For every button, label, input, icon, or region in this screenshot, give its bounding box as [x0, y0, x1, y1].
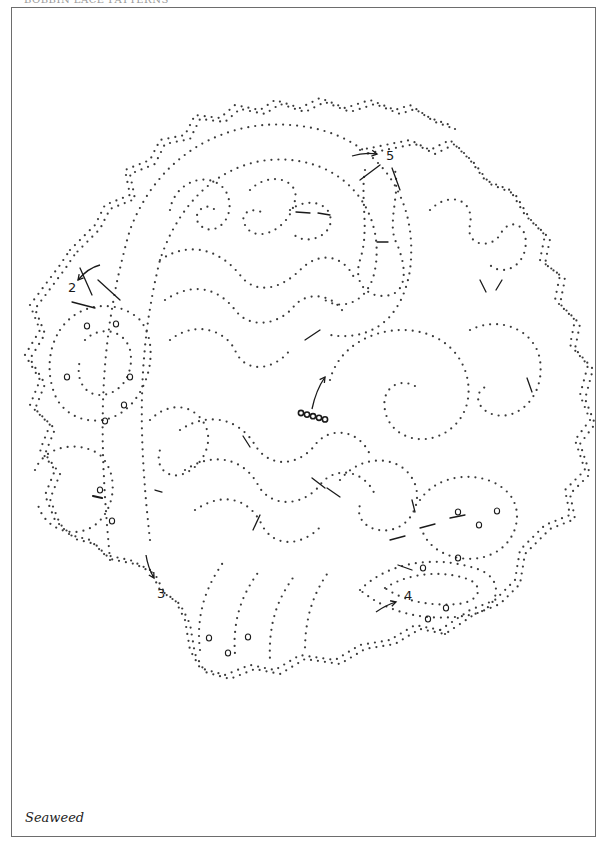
marker-label: 4: [404, 588, 412, 603]
ring-icon: [113, 321, 118, 327]
dash-mark: [527, 378, 532, 392]
ring-icon: [206, 635, 211, 641]
marker-label: 3: [157, 586, 165, 601]
dotted-path-curl-top-3: [289, 202, 332, 241]
ring-icon: [225, 650, 230, 656]
dotted-path-wave-1: [159, 248, 354, 289]
marker-4: 4: [376, 588, 412, 612]
arrow-icon: [146, 555, 154, 578]
dotted-path-curl-top-1: [169, 179, 231, 231]
dotted-path-big-paisley-outer: [102, 123, 413, 561]
dotted-path-top-right-column: [357, 169, 405, 297]
ring-icon: [121, 402, 126, 408]
dotted-path-right-lobes: [429, 198, 527, 271]
start-arrow: [312, 377, 325, 409]
numbered-markers: 2345: [68, 148, 412, 612]
dotted-path-right-lower-pod: [419, 476, 518, 560]
dotted-path-bottom-right-leaf-inner: [384, 573, 479, 606]
marker-1: [93, 496, 102, 498]
dash-mark: [318, 213, 330, 215]
start-pin-icon: [310, 414, 315, 419]
dash-mark: [390, 536, 405, 540]
start-pin-icon: [304, 412, 309, 417]
dotted-path-curl-top-2: [242, 178, 296, 235]
start-pin-icon: [322, 417, 327, 422]
start-pin-icon: [298, 410, 303, 415]
ring-icon: [84, 323, 89, 329]
dotted-path-left-pod: [49, 305, 152, 422]
ring-icon: [97, 487, 102, 493]
dotted-path-big-paisley-inner: [141, 158, 378, 541]
dotted-path-bottom-fingers: [198, 563, 328, 659]
marker-label: 2: [68, 280, 76, 295]
ring-icon: [420, 565, 425, 571]
arrow-icon: [312, 377, 325, 409]
marker-dash: [93, 496, 102, 498]
dotted-path-lower-waves-2: [184, 458, 375, 503]
dash-mark: [412, 500, 415, 512]
dash-mark: [305, 330, 320, 340]
dash-mark: [480, 280, 486, 292]
dotted-path-outer-scallop-top: [69, 98, 456, 253]
ring-icon: [443, 605, 448, 611]
dash-mark: [398, 565, 412, 570]
dotted-path-left-pod-inner: [78, 330, 132, 396]
ring-icon: [425, 616, 430, 622]
start-pin-icon: [316, 415, 321, 420]
dash-mark: [312, 478, 325, 488]
tally-dashes: [72, 165, 532, 570]
marker-3: 3: [146, 555, 165, 601]
marker-5: 5: [352, 148, 394, 163]
dash-mark: [360, 165, 380, 180]
dotted-path-center-spiral: [329, 329, 470, 440]
marker-2: 2: [68, 265, 100, 295]
lace-pricking-diagram: 2345: [0, 0, 604, 845]
dotted-path-mid-right-channel: [339, 460, 418, 532]
dotted-path-outer-scallop-bottom: [24, 253, 443, 679]
dotted-path-mid-left-channel: [149, 406, 209, 476]
ring-icon: [245, 634, 250, 640]
dotted-path-wave-3: [169, 328, 289, 368]
dash-mark: [296, 212, 310, 213]
marker-label: 5: [386, 148, 394, 163]
pattern-caption: Seaweed: [25, 810, 84, 825]
ring-icon: [494, 508, 499, 514]
dotted-path-left-lower-pod: [34, 446, 114, 534]
dash-mark: [98, 280, 120, 300]
start-pin-marker: [298, 410, 327, 422]
dash-mark: [72, 302, 95, 308]
ring-icon: [476, 522, 481, 528]
ring-icon: [64, 374, 69, 380]
ring-icon: [109, 518, 114, 524]
dash-mark: [155, 490, 162, 492]
dash-mark: [420, 524, 435, 528]
dash-mark: [327, 488, 340, 497]
ring-icon: [455, 509, 460, 515]
dotted-path-lower-waves-1: [179, 418, 370, 463]
dotted-pattern-lines: [24, 98, 595, 680]
dotted-path-wave-2: [164, 288, 343, 324]
dash-mark: [496, 280, 502, 290]
dotted-path-right-spiral: [469, 323, 542, 417]
